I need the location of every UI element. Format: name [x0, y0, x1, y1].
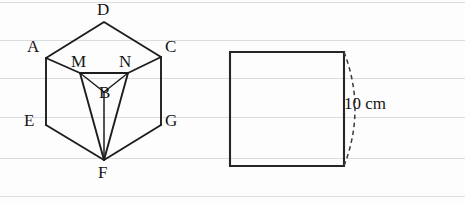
vertex-label-g: G [165, 112, 177, 129]
worksheet-page: D A C M N B E G F 10 cm [0, 0, 465, 203]
vertex-label-n: N [119, 53, 131, 70]
vertex-label-e: E [24, 112, 34, 129]
cube-edge-a-d-c [46, 22, 161, 58]
square-outline [230, 52, 344, 166]
vertex-label-a: A [27, 38, 39, 55]
vertex-label-m: M [71, 53, 86, 70]
dimension-label-10cm: 10 cm [344, 95, 386, 112]
figures-svg [0, 0, 465, 203]
cube-edge-c-n [128, 57, 161, 73]
vertex-label-b: B [99, 84, 110, 101]
vertex-label-f: F [98, 164, 107, 181]
square-figure [230, 52, 355, 166]
vertex-label-c: C [165, 38, 176, 55]
vertex-label-d: D [97, 1, 109, 18]
